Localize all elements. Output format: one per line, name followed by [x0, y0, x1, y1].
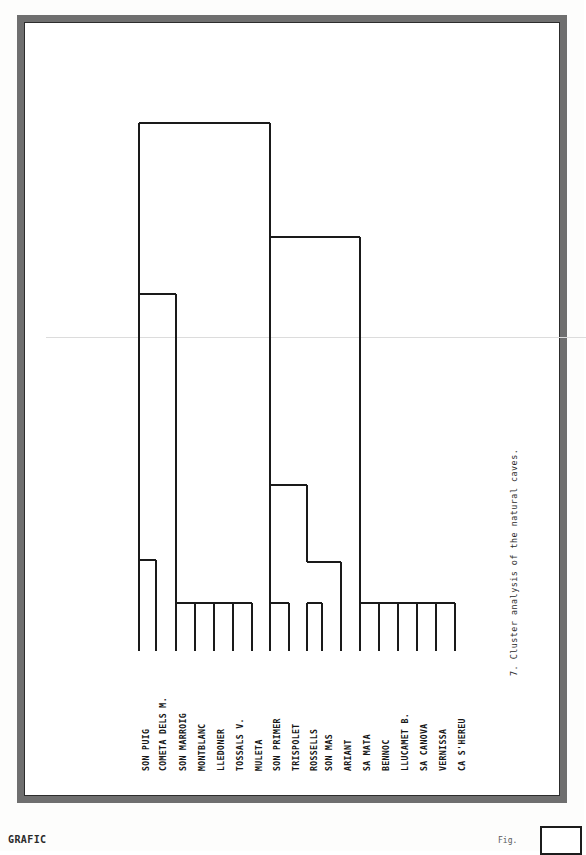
leaf-label: SON MARROIG [179, 713, 187, 771]
leaf-label: SON PRIMER [273, 718, 281, 771]
leaf-label: LLUCAMET B. [401, 713, 409, 771]
figure-plate-frame: SON PUIGCOMETA DELS M.SON MARROIGMONTBLA… [17, 15, 567, 803]
leaf-label: SA CANOVA [420, 723, 428, 771]
leaf-label: LLEDONER [217, 729, 225, 771]
artifact-label-left: GRAFIC [8, 834, 47, 845]
leaf-label: TRISPOLET [292, 723, 300, 771]
page-bottom-artifacts: GRAFIC Fig. [0, 812, 584, 851]
leaf-label: VERNISSA [439, 729, 447, 771]
leaf-label: SA MATA [363, 734, 371, 771]
leaf-label: ARIANT [344, 739, 352, 771]
leaf-label: SON PUIG [142, 729, 150, 771]
leaf-label: ROSSELLS [310, 729, 318, 771]
leaf-label: TOSSALS V. [236, 718, 244, 771]
figure-caption: 7. Cluster analysis of the natural caves… [510, 449, 518, 676]
dendrogram-plot [48, 44, 518, 674]
leaf-label: MULETA [255, 739, 263, 771]
leaf-label: SON MAS [325, 734, 333, 771]
artifact-label-right: Fig. [498, 836, 517, 845]
artifact-box [540, 826, 582, 855]
leaf-label: COMETA DELS M. [159, 697, 167, 771]
leaf-label: CA S'HEREU [458, 718, 466, 771]
leaf-label: MONTBLANC [198, 723, 206, 771]
dendrogram-figure: SON PUIGCOMETA DELS M.SON MARROIGMONTBLA… [48, 44, 584, 818]
leaf-label: BENNOC [382, 739, 390, 771]
